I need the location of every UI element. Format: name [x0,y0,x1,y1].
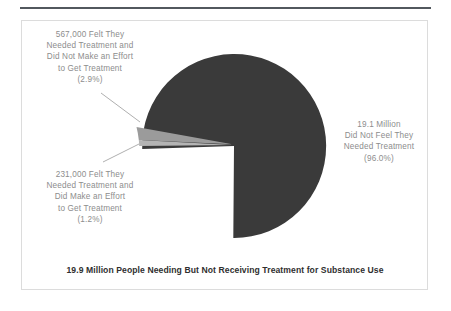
pie-label-did-not-feel-needed: 19.1 Million Did Not Feel They Needed Tr… [329,119,429,164]
pie-chart-figure: 567,000 Felt They Needed Treatment and D… [0,0,451,311]
top-divider-rule [20,7,431,9]
pie-label-made-effort: 231,000 Felt They Needed Treatment and D… [14,169,166,225]
pie-label-no-effort: 567,000 Felt They Needed Treatment and D… [14,29,166,85]
chart-caption: 19.9 Million People Needing But Not Rece… [31,264,419,276]
